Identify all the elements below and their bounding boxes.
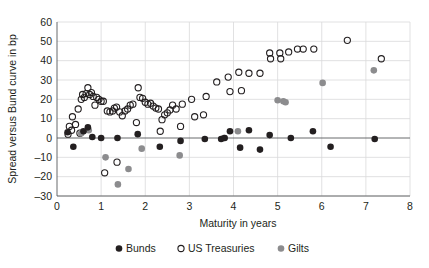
data-point bbox=[170, 102, 176, 108]
chart-legend: BundsUS TreasuriesGilts bbox=[116, 242, 309, 254]
data-point bbox=[288, 135, 295, 142]
y-tick-label: 50 bbox=[40, 35, 52, 47]
data-point bbox=[246, 70, 252, 76]
data-point bbox=[114, 159, 120, 165]
data-point bbox=[157, 143, 164, 150]
data-point bbox=[225, 74, 231, 80]
data-point bbox=[274, 97, 281, 104]
series-gilts bbox=[78, 67, 377, 188]
data-point bbox=[246, 127, 253, 134]
data-point bbox=[114, 135, 121, 142]
scatter-chart: –30–20–100102030405060 012345678 Maturit… bbox=[0, 0, 429, 268]
data-point bbox=[177, 138, 184, 145]
y-tick-label: –20 bbox=[34, 170, 52, 182]
data-point bbox=[371, 67, 378, 74]
data-point bbox=[282, 99, 289, 106]
x-tick-label: 1 bbox=[98, 200, 104, 212]
chart-canvas: –30–20–100102030405060 012345678 Maturit… bbox=[0, 0, 429, 268]
y-tick-label: 30 bbox=[40, 74, 52, 86]
x-tick-label: 8 bbox=[407, 200, 413, 212]
data-point bbox=[267, 50, 273, 56]
data-point bbox=[133, 119, 139, 125]
legend-label: US Treasuries bbox=[188, 242, 255, 254]
data-point bbox=[102, 154, 109, 161]
data-point bbox=[344, 37, 350, 43]
data-point bbox=[311, 46, 317, 52]
y-axis-title: Spread versus Bund curve in bp bbox=[6, 34, 18, 184]
data-point bbox=[327, 143, 334, 150]
data-point bbox=[238, 88, 244, 94]
data-point bbox=[227, 128, 234, 135]
data-point bbox=[177, 123, 183, 129]
x-tick-label: 0 bbox=[54, 200, 60, 212]
data-point bbox=[203, 93, 209, 99]
data-point bbox=[257, 70, 263, 76]
x-tick-label: 6 bbox=[319, 200, 325, 212]
y-tick-label: 0 bbox=[46, 132, 52, 144]
y-tick-labels: –30–20–100102030405060 bbox=[34, 16, 52, 202]
data-point bbox=[72, 121, 78, 127]
data-point bbox=[173, 106, 179, 112]
data-point bbox=[85, 124, 92, 131]
x-tick-label: 4 bbox=[231, 200, 237, 212]
data-point bbox=[92, 102, 98, 108]
x-tick-labels: 012345678 bbox=[54, 200, 413, 212]
y-tick-label: –10 bbox=[34, 151, 52, 163]
x-tick-label: 7 bbox=[363, 200, 369, 212]
data-point bbox=[266, 132, 273, 139]
data-point bbox=[200, 112, 206, 118]
data-point bbox=[257, 146, 264, 153]
data-point bbox=[138, 145, 145, 152]
data-point bbox=[135, 85, 141, 91]
x-tick-label: 5 bbox=[275, 200, 281, 212]
data-point bbox=[319, 80, 326, 87]
data-point bbox=[237, 144, 244, 151]
data-point bbox=[98, 135, 105, 142]
series-bunds bbox=[64, 124, 378, 153]
x-tick-label: 3 bbox=[186, 200, 192, 212]
data-point bbox=[75, 106, 81, 112]
legend-marker bbox=[116, 245, 123, 252]
data-point bbox=[134, 131, 141, 138]
data-point bbox=[235, 128, 242, 135]
data-point bbox=[89, 134, 96, 141]
y-tick-label: 40 bbox=[40, 54, 52, 66]
data-point bbox=[176, 152, 183, 159]
y-tick-label: 60 bbox=[40, 16, 52, 28]
series-us-treasuries bbox=[65, 37, 384, 176]
data-point bbox=[227, 89, 233, 95]
data-point bbox=[125, 166, 132, 173]
legend-label: Bunds bbox=[126, 242, 156, 254]
data-point bbox=[179, 101, 185, 107]
data-point bbox=[64, 129, 71, 136]
y-tick-label: 10 bbox=[40, 112, 52, 124]
data-point bbox=[236, 69, 242, 75]
legend-marker bbox=[278, 245, 285, 252]
legend-label: Gilts bbox=[288, 242, 309, 254]
data-point bbox=[202, 136, 209, 143]
x-axis-title: Maturity in years bbox=[199, 217, 276, 229]
data-point bbox=[221, 135, 228, 142]
y-tick-label: 20 bbox=[40, 93, 52, 105]
y-tick-label: –30 bbox=[34, 190, 52, 202]
data-point bbox=[310, 128, 317, 135]
data-point bbox=[102, 170, 108, 176]
data-point bbox=[115, 181, 122, 188]
data-point bbox=[371, 136, 378, 143]
data-point bbox=[286, 49, 292, 55]
data-point bbox=[70, 143, 77, 150]
x-tick-label: 2 bbox=[142, 200, 148, 212]
legend-marker bbox=[178, 245, 184, 251]
data-point bbox=[157, 128, 163, 134]
